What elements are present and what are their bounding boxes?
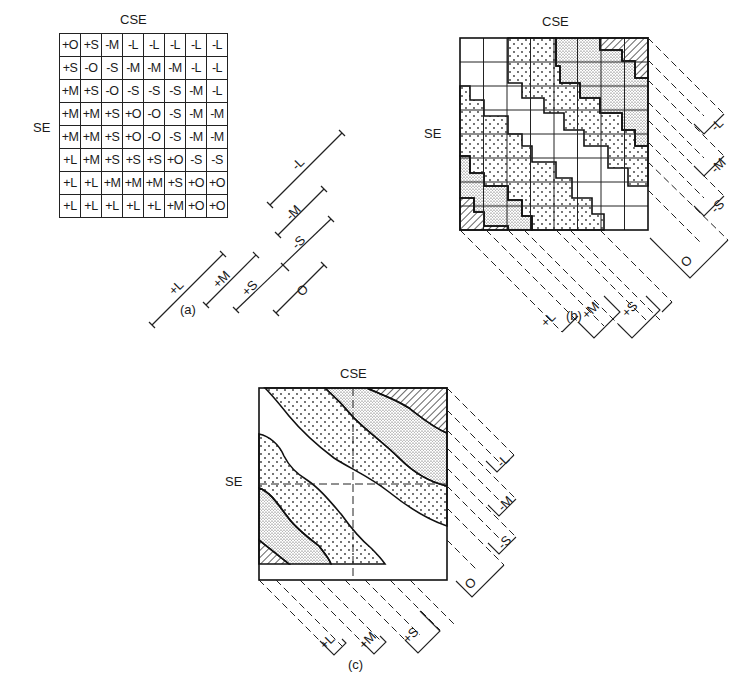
panel-b-axis-se: SE	[424, 126, 441, 141]
panel-c-axis-se: SE	[225, 474, 242, 489]
panel-c-caption: (c)	[348, 657, 363, 672]
panel-c-axis-cse: CSE	[340, 366, 367, 381]
diagram-canvas: -L -M -S O +S +M +L	[0, 0, 736, 682]
panel-a-legend-labels: -L -M -S O +S +M +L	[166, 154, 312, 299]
panel-b-axis-cse: CSE	[542, 14, 569, 29]
legend-neg-m: -M	[283, 202, 304, 223]
legend-zero: O	[294, 281, 312, 299]
panel-b: -L -M -S O +L +M +S	[460, 38, 729, 338]
panel-c-label-neg-l: -L	[494, 451, 513, 470]
legend-pos-l: +L	[166, 277, 187, 298]
panel-b-label-neg-l: -L	[708, 115, 727, 134]
panel-c-label-pos-l: +L	[317, 631, 338, 652]
legend-pos-m: +M	[210, 267, 234, 291]
panel-c: -L -M -S O +L +M +S	[259, 388, 516, 655]
panel-c-label-pos-s: +S	[400, 624, 422, 646]
legend-pos-s: +S	[239, 277, 261, 299]
panel-b-label-pos-l: +L	[538, 309, 559, 330]
panel-b-caption: (b)	[566, 308, 582, 323]
panel-b-label-pos-s: +S	[619, 298, 641, 320]
panel-b-label-neg-s: -S	[708, 196, 728, 216]
panel-c-label-pos-m: +M	[356, 628, 380, 652]
panel-b-label-pos-m: +M	[579, 298, 603, 322]
panel-b-label-neg-m: -M	[708, 155, 729, 176]
panel-c-label-neg-s: -S	[495, 532, 515, 552]
legend-neg-s: -S	[289, 232, 309, 252]
